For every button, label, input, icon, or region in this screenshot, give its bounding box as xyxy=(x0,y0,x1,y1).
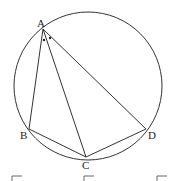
bracket-mark-1 xyxy=(12,176,22,181)
segment-ad xyxy=(43,29,146,129)
point-label-a: A xyxy=(37,17,45,29)
geometry-diagram: A B C D xyxy=(0,0,182,181)
point-label-b: B xyxy=(20,129,27,141)
bracket-mark-2 xyxy=(84,176,94,181)
bracket-mark-3 xyxy=(157,176,167,181)
point-label-c: C xyxy=(82,159,89,171)
segment-cd xyxy=(86,129,146,157)
point-label-d: D xyxy=(148,129,156,141)
segment-ac xyxy=(43,29,86,157)
angle-mark-dot-2 xyxy=(49,37,51,39)
segment-ab xyxy=(29,29,43,129)
circumscribed-circle xyxy=(14,12,162,160)
segment-bc xyxy=(29,129,86,157)
angle-mark-dot-1 xyxy=(43,39,45,41)
